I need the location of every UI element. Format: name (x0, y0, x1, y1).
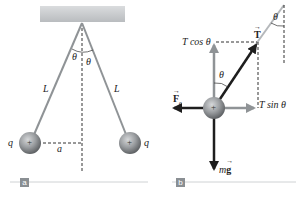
electric-force-label: →Fe (173, 94, 182, 106)
tension-label: →T (254, 30, 261, 40)
string-left (33, 23, 82, 137)
charge-left-label: q (8, 138, 13, 148)
panel-tag-a: a (20, 178, 29, 187)
separation-label: a (57, 144, 62, 154)
plus-sign: + (211, 103, 216, 112)
string-right (82, 23, 127, 137)
plus-sign-right: + (127, 138, 132, 147)
weight-label: m→g (219, 165, 231, 175)
charge-right-label: q (144, 138, 149, 148)
tension-vertical-label: T cos θ (182, 37, 211, 47)
theta-body-label: θ (219, 70, 224, 80)
ceiling-support (40, 6, 125, 22)
theta-right-label: θ (86, 57, 91, 67)
length-right-label: L (114, 84, 120, 94)
theta-left-label: θ (72, 52, 77, 62)
angle-arc-top (271, 23, 284, 26)
panel-b (172, 5, 296, 182)
angle-arc-body (214, 83, 228, 87)
length-left-label: L (43, 84, 49, 94)
theta-top-label: θ (273, 12, 278, 22)
panel-a (10, 6, 148, 182)
plus-sign-left: + (27, 138, 32, 147)
tension-horizontal-label: T sin θ (259, 100, 286, 110)
panel-tag-b: b (176, 178, 185, 187)
